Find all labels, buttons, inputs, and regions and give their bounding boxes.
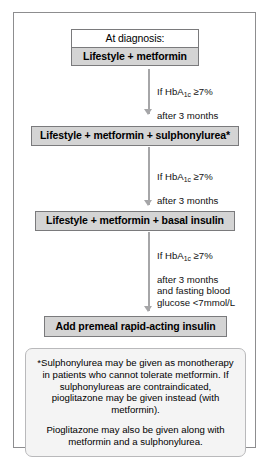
- arrow-head-icon: [144, 109, 152, 115]
- condition-3-hba1c-prefix: If HbA: [157, 250, 184, 261]
- condition-label-1: If HbA1c ≥7% after 3 months: [157, 74, 218, 121]
- arrow-down-1: [144, 69, 153, 114]
- diagram-frame: At diagnosis: Lifestyle + metformin If H…: [13, 12, 256, 448]
- footnote-paragraph-2: Pioglitazone may also be given along wit…: [33, 424, 238, 448]
- footnote-panel: *Sulphonylurea may be given as monothera…: [25, 348, 246, 457]
- node-at-diagnosis: At diagnosis:: [71, 29, 199, 47]
- arrow-stem: [148, 232, 150, 311]
- condition-2-threshold: ≥7%: [191, 171, 213, 182]
- condition-3-subscript: 1c: [184, 255, 191, 262]
- condition-2-duration: after 3 months: [157, 195, 218, 206]
- condition-1-subscript: 1c: [184, 91, 191, 98]
- arrow-down-2: [144, 147, 153, 205]
- condition-3-threshold: ≥7%: [191, 250, 213, 261]
- arrow-stem: [148, 69, 150, 114]
- condition-label-3: If HbA1c ≥7% after 3 months and fasting …: [157, 238, 235, 309]
- node-lifestyle-metformin-basal-insulin: Lifestyle + metformin + basal insulin: [35, 211, 235, 231]
- arrow-stem: [148, 147, 150, 205]
- node-group-diagnosis: At diagnosis: Lifestyle + metformin: [71, 29, 199, 66]
- node-lifestyle-metformin-sulphonylurea: Lifestyle + metformin + sulphonylurea*: [31, 126, 239, 146]
- arrow-head-icon: [144, 200, 152, 206]
- condition-3-details: after 3 months and fasting blood glucose…: [157, 274, 235, 308]
- footnote-paragraph-1: *Sulphonylurea may be given as monothera…: [33, 357, 238, 416]
- condition-label-2: If HbA1c ≥7% after 3 months: [157, 159, 218, 206]
- condition-2-subscript: 1c: [184, 176, 191, 183]
- node-lifestyle-metformin: Lifestyle + metformin: [71, 47, 199, 66]
- node-add-premeal-rapid-acting-insulin: Add premeal rapid-acting insulin: [44, 316, 227, 337]
- flowchart-figure: At diagnosis: Lifestyle + metformin If H…: [0, 0, 269, 461]
- condition-1-threshold: ≥7%: [191, 86, 213, 97]
- condition-1-duration: after 3 months: [157, 110, 218, 121]
- condition-1-hba1c-prefix: If HbA: [157, 86, 184, 97]
- flowchart-canvas: At diagnosis: Lifestyle + metformin If H…: [14, 13, 257, 449]
- arrow-down-3: [144, 232, 153, 311]
- arrow-head-icon: [144, 306, 152, 312]
- condition-2-hba1c-prefix: If HbA: [157, 171, 184, 182]
